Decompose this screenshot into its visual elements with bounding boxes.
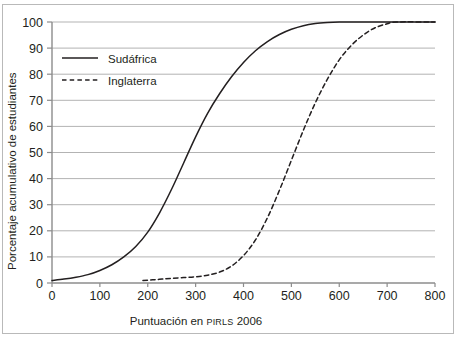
y-tick-label: 20 — [29, 224, 43, 238]
legend-label-sudfrica: Sudáfrica — [108, 53, 157, 65]
y-tick-label: 40 — [29, 172, 43, 186]
x-axis-tick-labels: 0100200300400500600700800 — [49, 289, 446, 303]
y-axis-title: Porcentaje acumulativo de estudiantes — [6, 72, 18, 270]
y-tick-label: 50 — [29, 146, 43, 160]
x-tick-label: 200 — [137, 289, 158, 303]
x-tick-label: 700 — [377, 289, 398, 303]
y-tick-label: 80 — [29, 68, 43, 82]
x-axis-title-acronym: PIRLS — [206, 317, 233, 327]
y-tick-label: 100 — [22, 16, 43, 30]
cumulative-percentage-chart: 0100200300400500600700800 01020304050607… — [0, 0, 458, 338]
x-tick-label: 300 — [185, 289, 206, 303]
y-axis-ticks — [47, 22, 52, 283]
x-tick-label: 600 — [329, 289, 350, 303]
y-tick-label: 60 — [29, 120, 43, 134]
chart-page: 0100200300400500600700800 01020304050607… — [0, 0, 458, 338]
legend-label-inglaterra: Inglaterra — [108, 75, 157, 87]
x-axis-title: Puntuación en PIRLS 2006 — [130, 315, 263, 327]
x-axis-title-prefix: Puntuación en — [130, 315, 207, 327]
y-tick-label: 90 — [29, 42, 43, 56]
x-tick-label: 400 — [233, 289, 254, 303]
series-line-inglaterra — [143, 22, 435, 281]
legend: SudáfricaInglaterra — [62, 53, 157, 87]
svg-text:Puntuación en PIRLS 2006: Puntuación en PIRLS 2006 — [130, 315, 263, 327]
x-tick-label: 500 — [281, 289, 302, 303]
y-tick-label: 0 — [36, 277, 43, 291]
x-tick-label: 800 — [425, 289, 446, 303]
x-tick-label: 100 — [89, 289, 110, 303]
y-tick-label: 10 — [29, 250, 43, 264]
y-tick-label: 70 — [29, 94, 43, 108]
y-axis-tick-labels: 0102030405060708090100 — [22, 16, 43, 291]
x-axis-title-suffix: 2006 — [233, 315, 262, 327]
x-tick-label: 0 — [49, 289, 56, 303]
y-tick-label: 30 — [29, 198, 43, 212]
